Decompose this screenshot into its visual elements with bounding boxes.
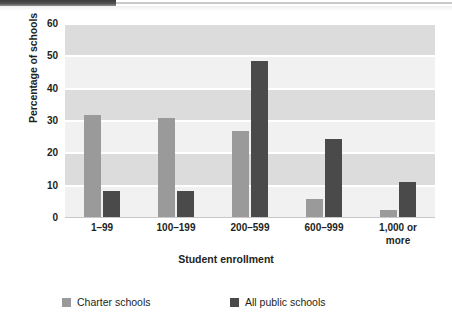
y-tick-label: 20 xyxy=(28,148,58,158)
bar-charter xyxy=(84,115,101,218)
background-band xyxy=(65,153,435,185)
legend-item: Charter schools xyxy=(62,296,151,308)
background-band xyxy=(65,24,435,56)
bar-all-public xyxy=(325,139,342,218)
y-tick-label: 10 xyxy=(28,181,58,191)
legend-label: Charter schools xyxy=(77,296,151,308)
x-tick-label: 100–199 xyxy=(139,222,213,235)
legend-swatch xyxy=(62,298,71,307)
legend-swatch xyxy=(230,298,239,307)
legend-item: All public schools xyxy=(230,296,326,308)
y-tick-label: 50 xyxy=(28,51,58,61)
legend-label: All public schools xyxy=(245,296,326,308)
x-tick-label: 600–999 xyxy=(287,222,361,235)
gridline xyxy=(65,23,435,25)
gridline xyxy=(65,88,435,90)
x-tick-label: 1–99 xyxy=(65,222,139,235)
plot-area xyxy=(65,24,435,218)
y-tick-label: 0 xyxy=(28,213,58,223)
x-tick-line: more xyxy=(361,235,435,248)
x-tick-line: 1,000 or xyxy=(361,222,435,235)
y-tick-label: 60 xyxy=(28,19,58,29)
background-band xyxy=(65,56,435,88)
background-band xyxy=(65,121,435,153)
x-axis-title: Student enrollment xyxy=(0,253,452,265)
bar-charter xyxy=(306,199,323,218)
y-tick-label: 30 xyxy=(28,116,58,126)
gridline xyxy=(65,55,435,57)
bar-all-public xyxy=(399,182,416,218)
x-axis-baseline xyxy=(65,217,435,218)
x-tick-label: 1,000 ormore xyxy=(361,222,435,247)
background-band xyxy=(65,89,435,121)
chart-legend: Charter schoolsAll public schools xyxy=(62,296,392,314)
gridline xyxy=(65,120,435,122)
bar-charter xyxy=(232,131,249,218)
bar-all-public xyxy=(177,191,194,218)
bar-chart-figure: Percentage of schools 6050403020100 1–99… xyxy=(0,0,452,328)
gridline xyxy=(65,152,435,154)
gridline xyxy=(65,185,435,187)
bar-all-public xyxy=(103,191,120,218)
bar-charter xyxy=(158,118,175,218)
x-tick-label: 200–599 xyxy=(213,222,287,235)
bar-all-public xyxy=(251,61,268,218)
y-tick-label: 40 xyxy=(28,84,58,94)
